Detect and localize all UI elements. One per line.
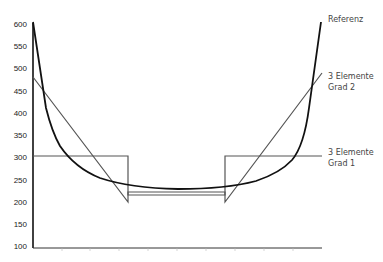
- y-tick-450: 450: [14, 87, 28, 96]
- y-tick-350: 350: [14, 131, 28, 140]
- legend-grad2-line1: 3 Elemente: [328, 72, 374, 81]
- y-tick-500: 500: [14, 64, 28, 73]
- y-tick-550: 550: [14, 42, 28, 51]
- y-tick-250: 250: [14, 176, 28, 185]
- series-referenz: [33, 22, 321, 189]
- series-grad2: [33, 73, 322, 202]
- y-tick-600: 600: [14, 20, 28, 29]
- y-tick-400: 400: [14, 109, 28, 118]
- y-tick-100: 100: [14, 242, 28, 251]
- legend-grad1-line1: 3 Elemente: [328, 148, 374, 157]
- legend-grad2-line2: Grad 2: [328, 83, 355, 92]
- y-axis-labels: 600 550 500 450 400 350 300 250 200 150 …: [14, 20, 28, 251]
- legend-grad1-line2: Grad 1: [328, 159, 355, 168]
- y-tick-200: 200: [14, 198, 28, 207]
- legend-referenz: Referenz: [328, 15, 363, 24]
- y-tick-300: 300: [14, 153, 28, 162]
- y-tick-150: 150: [14, 220, 28, 229]
- chart: 600 550 500 450 400 350 300 250 200 150 …: [0, 0, 383, 262]
